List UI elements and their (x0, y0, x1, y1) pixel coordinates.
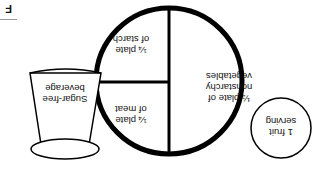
nonstarchy-line3: vegetables (189, 71, 269, 82)
nonstarchy-vegetables-label: ½ plate of nonstarchy vegetables (189, 71, 269, 104)
fruit-line2: serving (251, 116, 311, 127)
corner-underline (0, 19, 17, 20)
beverage-label: Sugar-free beverage (33, 83, 97, 105)
starch-line2: of starch (101, 34, 161, 45)
beverage-line1: Sugar-free (33, 94, 97, 105)
fruit-line1: 1 fruit (251, 127, 311, 138)
nonstarchy-line1: ½ plate of (189, 93, 269, 104)
starch-line1: ¼ plate (101, 45, 161, 56)
beverage-line2: beverage (33, 83, 97, 94)
fruit-label: 1 fruit serving (251, 116, 311, 138)
meat-line2: of meat (101, 104, 161, 115)
plate-method-diagram: ½ plate of nonstarchy vegetables ¼ plate… (0, 0, 317, 171)
starch-label: ¼ plate of starch (101, 34, 161, 56)
nonstarchy-line2: nonstarchy (189, 82, 269, 93)
corner-heading: F (5, 3, 12, 15)
meat-label: ¼ plate of meat (101, 104, 161, 126)
meat-line1: ¼ plate (101, 115, 161, 126)
